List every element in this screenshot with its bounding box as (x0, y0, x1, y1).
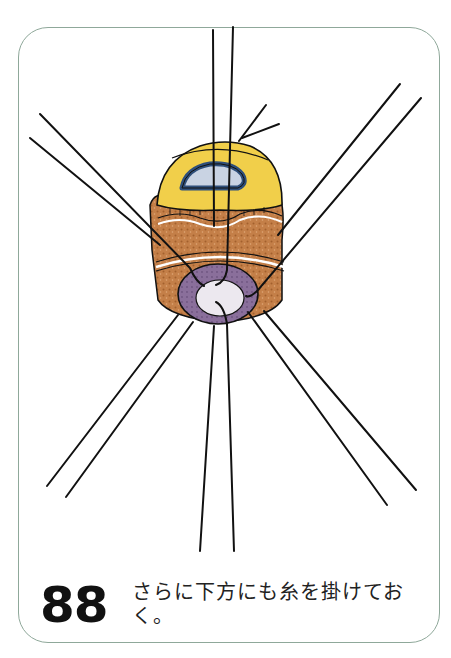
step-number: 88 (40, 580, 108, 630)
suture-illustration (0, 0, 451, 658)
yellow-layer (157, 142, 282, 216)
purple-ring (178, 264, 258, 324)
step-caption: さらに下方にも糸を掛けておく。 (132, 580, 422, 628)
